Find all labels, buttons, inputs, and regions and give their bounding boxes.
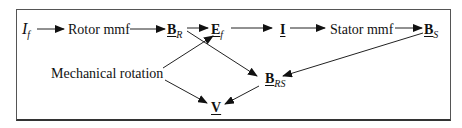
node-v: V	[211, 101, 221, 115]
node-i: I	[280, 23, 285, 37]
node-brs: BRS	[265, 72, 285, 87]
diagram-arrows	[0, 0, 462, 128]
node-ef: Ef	[211, 23, 223, 38]
node-mechanical-rotation: Mechanical rotation	[51, 67, 163, 81]
arrow-mech-v	[165, 80, 207, 103]
arrow-mech-ef	[163, 36, 213, 68]
node-rotor-mmf: Rotor mmf	[68, 23, 130, 37]
node-br: BR	[167, 23, 182, 38]
node-field-current: If	[22, 22, 30, 38]
arrow-bs-brs	[283, 33, 423, 76]
node-stator-mmf: Stator mmf	[330, 23, 393, 37]
arrow-brs-v	[225, 86, 259, 104]
node-bs: BS	[424, 23, 438, 38]
